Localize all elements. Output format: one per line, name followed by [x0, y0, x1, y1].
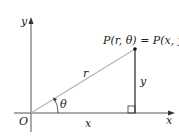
- right-angle-marker: [128, 106, 135, 113]
- origin-label: O: [19, 115, 28, 128]
- y-axis-label: y: [20, 15, 28, 28]
- point-p: [133, 47, 137, 51]
- hypotenuse-label: r: [83, 67, 89, 80]
- point-label: P(r, θ) = P(x, y): [102, 34, 179, 47]
- x-axis-label: x: [166, 114, 173, 127]
- polar-cartesian-diagram: P(r, θ) = P(x, y) O x y r θ x y: [0, 0, 179, 139]
- angle-label: θ: [60, 98, 67, 111]
- horizontal-leg-label: x: [85, 117, 92, 130]
- vertical-leg-label: y: [139, 75, 147, 88]
- y-axis-arrow-icon: [29, 17, 34, 24]
- radius-line: [31, 49, 135, 113]
- angle-arc: [55, 99, 59, 113]
